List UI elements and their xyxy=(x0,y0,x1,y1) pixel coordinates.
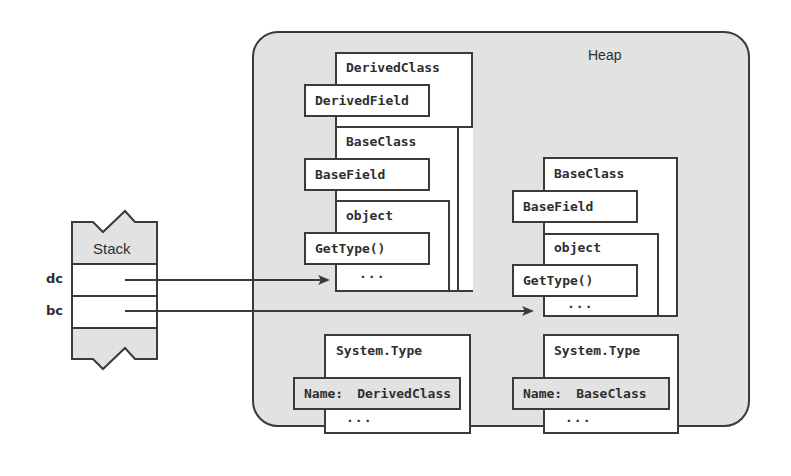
stack-shape-and-arrows xyxy=(0,0,791,476)
stack-var-bc: bc xyxy=(46,303,63,318)
stack-label: Stack xyxy=(93,240,131,257)
stack-bottom-shape xyxy=(72,328,157,369)
stack-var-dc: dc xyxy=(46,271,63,286)
